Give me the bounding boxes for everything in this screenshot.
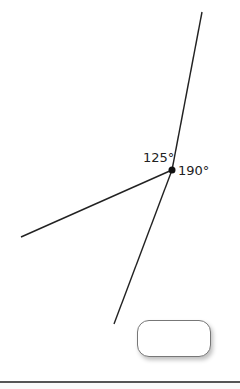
angle-label-190: 190° [178,164,209,177]
ray-down [114,170,172,324]
vertex-point [169,167,176,174]
ray-up [172,12,202,170]
bottom-divider [0,381,240,389]
ray-left [21,170,172,237]
angle-label-125: 125° [143,151,174,164]
answer-button[interactable] [137,320,211,357]
